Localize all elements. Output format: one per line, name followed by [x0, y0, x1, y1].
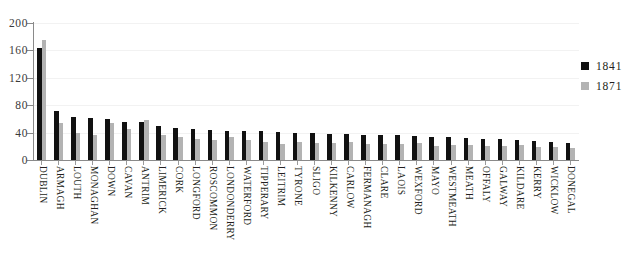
bar-1871 [127, 129, 132, 160]
x-axis-label-cell: KILDARE [511, 166, 528, 262]
x-axis-tick [502, 161, 503, 165]
x-axis-tick [143, 161, 144, 165]
x-axis-label-cell: FERMANAGH [357, 166, 374, 262]
bar-group [221, 23, 238, 160]
x-axis-label-cell: LAOIS [391, 166, 408, 262]
x-axis-tick-cell [84, 161, 101, 165]
bar-1871 [297, 142, 302, 160]
x-axis-label: SLIGO [310, 166, 319, 195]
bar-group [391, 23, 408, 160]
x-axis-label: KILDARE [515, 166, 524, 210]
x-axis-label: MAYO [429, 166, 438, 195]
x-axis-tick-cell [408, 161, 425, 165]
bar-group [477, 23, 494, 160]
y-axis-label: 40 [15, 127, 33, 139]
x-axis-tick-cell [101, 161, 118, 165]
x-axis-label-cell: WESTMEATH [443, 166, 460, 262]
x-axis-label: DOWN [105, 166, 114, 197]
x-axis-label-cell: MEATH [460, 166, 477, 262]
x-axis-label-cell: OFFALY [477, 166, 494, 262]
bar-1871 [519, 145, 524, 160]
x-axis-label: WESTMEATH [446, 166, 455, 227]
bar-group [511, 23, 528, 160]
y-axis-label: 80 [15, 99, 33, 111]
legend-swatch-icon [581, 82, 589, 90]
x-axis-tick-cell [118, 161, 135, 165]
x-axis-tick [399, 161, 400, 165]
x-axis-label: KILKENNY [327, 166, 336, 217]
x-axis-label: MEATH [463, 166, 472, 200]
x-axis-label: OFFALY [480, 166, 489, 203]
bar-1871 [468, 145, 473, 160]
x-axis-tick [416, 161, 417, 165]
x-axis-label: WICKLOW [549, 166, 558, 215]
legend-label: 1841 [596, 60, 622, 72]
x-axis-tick [178, 161, 179, 165]
x-axis-tick [365, 161, 366, 165]
x-axis-label: LONDONDERRY [225, 166, 234, 241]
x-axis-tick-cell [562, 161, 579, 165]
x-axis-label: LONGFORD [190, 166, 199, 220]
x-axis-tick-cell [289, 161, 306, 165]
bar-1871 [417, 143, 422, 160]
x-axis-label-cell: DUBLIN [33, 166, 50, 262]
y-axis-label: 120 [9, 72, 33, 84]
x-axis-label-cell: SLIGO [306, 166, 323, 262]
bar-group [460, 23, 477, 160]
bar-1871 [229, 137, 234, 160]
x-axis-tick [331, 161, 332, 165]
x-axis-tick-cell [204, 161, 221, 165]
x-axis-label: GALWAY [498, 166, 507, 207]
x-axis-label: DONEGAL [566, 166, 575, 214]
x-axis-tick-cell [494, 161, 511, 165]
x-axis-tick-cell [67, 161, 84, 165]
bar-1871 [212, 140, 217, 160]
bar-1871 [366, 144, 371, 160]
bar-1871 [178, 137, 183, 160]
bar-group [562, 23, 579, 160]
x-axis-tick [212, 161, 213, 165]
x-axis-label: WATERFORD [242, 166, 251, 225]
bar-group [50, 23, 67, 160]
bar-group [289, 23, 306, 160]
bar-1871 [451, 145, 456, 160]
x-axis-label-cell: LEITRIM [272, 166, 289, 262]
x-axis-label: ANTRIM [139, 166, 148, 205]
bar-chart: 04080120160200 DUBLINARMAGHLOUTHMONAGHAN… [0, 0, 636, 264]
bar-group [238, 23, 255, 160]
x-axis-label: WEXFORD [412, 166, 421, 215]
bar-group [170, 23, 187, 160]
x-axis-tick-cell [187, 161, 204, 165]
x-axis-tick-cell [255, 161, 272, 165]
x-axis-tick [126, 161, 127, 165]
bar-group [374, 23, 391, 160]
bar-group [494, 23, 511, 160]
x-axis-label-cell: DONEGAL [562, 166, 579, 262]
x-axis-tick [246, 161, 247, 165]
x-axis-label-cell: ROSCOMMON [204, 166, 221, 262]
x-axis-tick [519, 161, 520, 165]
bar-group [33, 23, 50, 160]
x-axis-tick [58, 161, 59, 165]
x-axis-label: CARLOW [344, 166, 353, 209]
x-axis-tick-cell [152, 161, 169, 165]
x-axis-label: ARMAGH [54, 166, 63, 210]
x-axis-tick [314, 161, 315, 165]
x-axis-tick-cell [443, 161, 460, 165]
bar-1871 [42, 40, 47, 160]
x-axis-tick [280, 161, 281, 165]
legend-swatch-icon [581, 62, 589, 70]
x-axis-tick [485, 161, 486, 165]
x-axis-label-cell: LIMERICK [152, 166, 169, 262]
x-axis-label-cell: CLARE [374, 166, 391, 262]
x-axis-tick-cell [545, 161, 562, 165]
x-axis-label-cell: CARLOW [340, 166, 357, 262]
bar-1871 [93, 135, 98, 160]
bar-group [357, 23, 374, 160]
x-axis-label-cell: DOWN [101, 166, 118, 262]
x-axis-label-cell: KILKENNY [323, 166, 340, 262]
x-axis-label-cell: TYRONE [289, 166, 306, 262]
bar-1871 [280, 144, 285, 160]
x-axis-label-cell: LONDONDERRY [221, 166, 238, 262]
x-axis-label: FERMANAGH [361, 166, 370, 229]
